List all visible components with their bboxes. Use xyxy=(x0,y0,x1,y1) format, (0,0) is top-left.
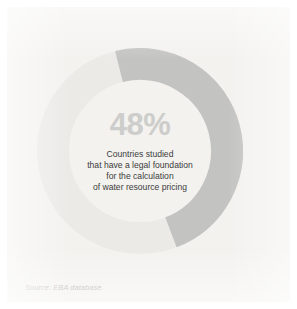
paper-panel: 48% Countries studied that have a legal … xyxy=(7,7,290,302)
infographic-canvas: 48% Countries studied that have a legal … xyxy=(0,0,297,309)
source-note: Source: EBA database. xyxy=(25,283,104,292)
donut-chart: 48% Countries studied that have a legal … xyxy=(37,48,243,254)
donut-chart-svg xyxy=(37,48,243,254)
